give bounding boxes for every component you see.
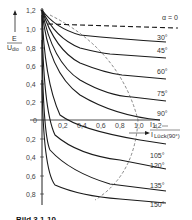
svg-text:0,4: 0,4 [26,81,36,88]
svg-text:45°: 45° [157,47,168,54]
y-tick-labels: 1,2 1,0 0,8 0,6 0,4 0,2 0 0,2 0,4 0,6 0,… [26,7,37,198]
y-axis-label: E U dio [7,10,22,52]
svg-text:0,2: 0,2 [26,136,36,143]
figure-caption: Bild 3.1-10 [16,215,57,220]
svg-text:0,4: 0,4 [26,154,36,161]
svg-text:0,8: 0,8 [26,191,36,198]
svg-text:1,0: 1,0 [134,122,144,129]
curve-120 [42,15,166,169]
svg-text:90°: 90° [157,110,168,117]
svg-text:α = 0: α = 0 [162,14,178,21]
svg-text:I: I [150,121,152,128]
curve-labels: α = 0 30° 45° 60° 75° 90° 105° 120° 135°… [150,14,178,208]
svg-text:30°: 30° [157,34,168,41]
svg-text:0,6: 0,6 [26,173,36,180]
svg-text:135°: 135° [150,182,165,189]
svg-text:60°: 60° [157,68,168,75]
curve-alpha-0-dashed [48,24,178,28]
svg-text:150°: 150° [150,201,165,208]
svg-text:1,2: 1,2 [26,7,36,14]
svg-text:0,8: 0,8 [26,45,36,52]
svg-text:120°: 120° [150,162,165,169]
svg-text:0,6: 0,6 [26,63,36,70]
svg-text:75°: 75° [157,90,168,97]
svg-text:dio: dio [12,46,19,52]
svg-text:1,0: 1,0 [26,26,36,33]
svg-text:0: 0 [33,117,37,124]
svg-text:I: I [151,131,153,138]
chart: 1,2 1,0 0,8 0,6 0,4 0,2 0 0,2 0,4 0,6 0,… [0,0,192,220]
svg-text:Lück(90°): Lück(90°) [154,133,180,139]
svg-text:0,2: 0,2 [58,122,68,129]
svg-text:0,8: 0,8 [115,122,125,129]
boundary-curve-dashed [50,15,138,200]
svg-text:105°: 105° [150,152,165,159]
svg-text:0,2: 0,2 [26,99,36,106]
svg-text:0,6: 0,6 [96,122,106,129]
curve-45 [42,10,166,58]
svg-text:d: d [154,123,157,129]
svg-text:E: E [12,35,17,42]
